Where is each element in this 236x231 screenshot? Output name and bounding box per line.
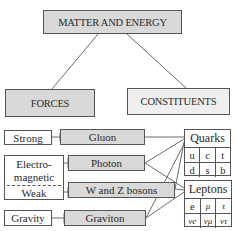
quark-cell: b bbox=[215, 163, 230, 177]
line-root-forces bbox=[52, 34, 98, 89]
carrier-photon: Photon bbox=[68, 155, 145, 171]
leptons-row-1: e μ τ bbox=[185, 199, 231, 213]
quark-cell: t bbox=[215, 148, 230, 162]
lepton-cell: e bbox=[185, 199, 200, 213]
quarks-row-2: d s b bbox=[185, 162, 230, 177]
forces-label: FORCES bbox=[31, 98, 69, 109]
force-em-line2: magnetic bbox=[5, 171, 63, 183]
leptons-row-2: νe νμ ντ bbox=[185, 213, 231, 228]
leptons-table: Leptons e μ τ νe νμ ντ bbox=[184, 180, 232, 227]
force-em-line1: Electro- bbox=[5, 158, 63, 170]
neutrino-cell: νe bbox=[185, 214, 200, 228]
force-strong-label: Strong bbox=[13, 132, 42, 144]
carrier-gluon-label: Gluon bbox=[89, 131, 117, 143]
line-wz-quarks bbox=[175, 142, 184, 189]
line-wz-leptons bbox=[175, 189, 184, 190]
quarks-table: Quarks u c t d s b bbox=[184, 129, 231, 176]
quark-cell: u bbox=[185, 148, 199, 162]
lepton-cell: τ bbox=[215, 199, 231, 213]
carrier-w-and-z-bosons: W and Z bosons bbox=[68, 182, 175, 198]
carrier-photon-label: Photon bbox=[91, 157, 122, 169]
line-photon-quarks bbox=[145, 139, 184, 163]
carrier-graviton-label: Graviton bbox=[85, 212, 124, 224]
carrier-graviton: Graviton bbox=[64, 210, 146, 226]
lepton-cell: μ bbox=[200, 199, 216, 213]
category-constituents: CONSTITUENTS bbox=[127, 88, 230, 115]
force-gravity: Gravity bbox=[4, 210, 52, 226]
force-electromagnetic-weak: Electro- magnetic Weak bbox=[4, 155, 64, 200]
constituents-label: CONSTITUENTS bbox=[141, 96, 217, 107]
quarks-title: Quarks bbox=[185, 130, 230, 148]
quark-cell: s bbox=[199, 163, 214, 177]
root-node-matter-and-energy: MATTER AND ENERGY bbox=[43, 10, 182, 34]
root-label: MATTER AND ENERGY bbox=[58, 17, 167, 28]
leptons-title: Leptons bbox=[185, 181, 231, 199]
force-weak-label: Weak bbox=[5, 187, 63, 199]
quarks-row-1: u c t bbox=[185, 148, 230, 162]
neutrino-cell: ντ bbox=[215, 214, 231, 228]
category-forces: FORCES bbox=[5, 89, 95, 117]
carrier-gluon: Gluon bbox=[60, 129, 145, 145]
neutrino-cell: νμ bbox=[200, 214, 216, 228]
quark-cell: c bbox=[199, 148, 214, 162]
line-root-constituents bbox=[127, 34, 186, 88]
carrier-wz-label: W and Z bosons bbox=[86, 184, 158, 196]
force-strong: Strong bbox=[4, 130, 52, 145]
unification-divider bbox=[7, 185, 61, 186]
quark-cell: d bbox=[185, 163, 199, 177]
force-gravity-label: Gravity bbox=[11, 212, 45, 224]
line-graviton-quarks bbox=[146, 144, 184, 218]
